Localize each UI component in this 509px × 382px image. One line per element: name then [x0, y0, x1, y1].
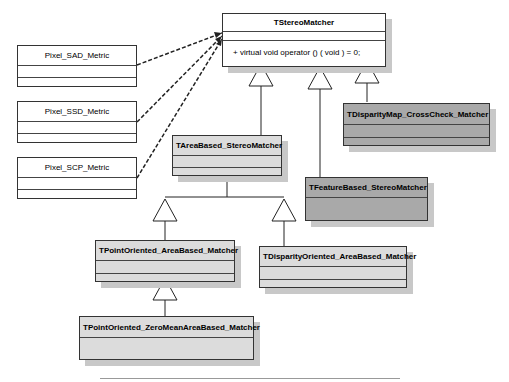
- class-name: Pixel_SSD_Metric: [18, 102, 136, 122]
- attributes-section: [96, 261, 234, 274]
- operations-section: [18, 78, 136, 87]
- attributes-section: [18, 122, 136, 134]
- class-pixel-ssd-metric[interactable]: Pixel_SSD_Metric: [17, 101, 137, 143]
- attributes-section: [18, 66, 136, 78]
- class-tpointoriented-areabased-matcher[interactable]: TPointOriented_AreaBased_Matcher: [95, 240, 235, 282]
- attributes-section: [260, 267, 406, 280]
- class-name: Pixel_SAD_Metric: [18, 46, 136, 66]
- operations-section: [18, 134, 136, 143]
- class-name: TPointOriented_AreaBased_Matcher: [96, 241, 234, 261]
- class-name: TFeatureBased_StereoMatcher: [306, 178, 427, 198]
- class-name: TDisparityMap_CrossCheck_Matcher: [344, 104, 489, 125]
- class-name: TPointOriented_ZeroMeanAreaBased_Matcher: [80, 317, 253, 338]
- class-tpointoriented-zeromeanareabased-matcher[interactable]: TPointOriented_ZeroMeanAreaBased_Matcher: [79, 316, 254, 360]
- attributes-section: [18, 178, 136, 190]
- class-name: Pixel_SCP_Metric: [18, 158, 136, 178]
- class-pixel-scp-metric[interactable]: Pixel_SCP_Metric: [17, 157, 137, 199]
- attributes-section: [223, 32, 385, 41]
- body-section: [80, 338, 253, 360]
- attributes-section: [344, 125, 489, 138]
- class-tdisparityoriented-areabased-matcher[interactable]: TDisparityOriented_AreaBased_Matcher: [259, 246, 407, 288]
- class-name: TStereoMatcher: [223, 14, 385, 32]
- class-tstereomatcher[interactable]: TStereoMatcher + virtual void operator (…: [222, 13, 386, 67]
- class-tareabased-stereomatcher[interactable]: TAreaBased_StereoMatcher: [172, 135, 282, 176]
- operations-section: [260, 280, 406, 288]
- operations-section: [18, 190, 136, 199]
- attributes-section: [173, 156, 281, 168]
- operation: + virtual void operator () ( void ) = 0;: [223, 41, 385, 65]
- class-tfeaturebased-stereomatcher[interactable]: TFeatureBased_StereoMatcher: [305, 177, 428, 221]
- operations-section: [344, 138, 489, 146]
- operations-section: [96, 274, 234, 282]
- class-name: TAreaBased_StereoMatcher: [173, 136, 281, 156]
- body-section: [306, 198, 427, 221]
- class-pixel-sad-metric[interactable]: Pixel_SAD_Metric: [17, 45, 137, 87]
- class-name: TDisparityOriented_AreaBased_Matcher: [260, 247, 406, 267]
- operations-section: [173, 168, 281, 176]
- class-tdisparitymap-crosscheck-matcher[interactable]: TDisparityMap_CrossCheck_Matcher: [343, 103, 490, 146]
